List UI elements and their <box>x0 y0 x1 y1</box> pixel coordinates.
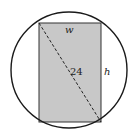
width-label: w <box>65 24 74 35</box>
height-label: h <box>104 66 110 77</box>
geometry-figure: w 24 h <box>0 0 136 140</box>
diagonal-length-label: 24 <box>70 66 83 77</box>
diagram-canvas: w 24 h <box>0 0 136 140</box>
